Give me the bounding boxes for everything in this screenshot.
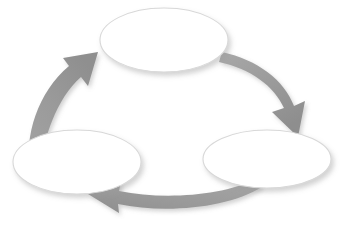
node-bottom-right-shape[interactable] <box>203 130 331 188</box>
node-bottom-left-shape[interactable] <box>13 130 141 194</box>
diagram-canvas-svg <box>0 0 350 227</box>
node-bottom-left[interactable] <box>13 130 141 194</box>
node-bottom-right[interactable] <box>203 130 331 188</box>
arrow-top-to-bottom-right <box>219 52 305 137</box>
node-top-shape[interactable] <box>100 8 228 72</box>
node-top[interactable] <box>100 8 228 72</box>
cycle-diagram <box>0 0 350 227</box>
